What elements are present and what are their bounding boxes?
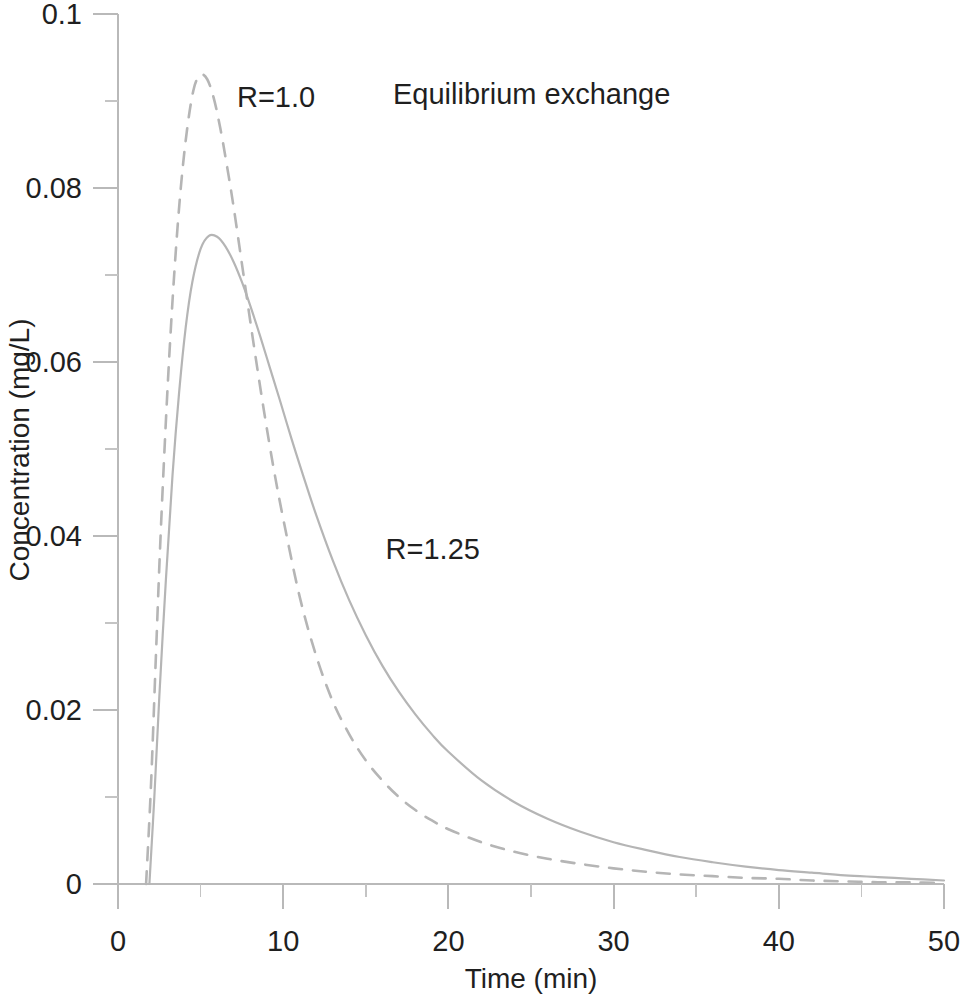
x-axis-title: Time (min): [465, 963, 598, 994]
x-tick-label: 50: [928, 925, 960, 957]
y-axis-title: Concentration (mg/L): [4, 318, 35, 581]
y-axis-ticks: 00.020.040.060.080.1: [26, 0, 118, 900]
chart-title: Equilibrium exchange: [393, 78, 670, 110]
x-tick-label: 0: [110, 925, 126, 957]
y-tick-label: 0.08: [26, 172, 82, 204]
y-tick-major: 0.08: [26, 172, 118, 204]
x-tick-major: 10: [267, 884, 299, 957]
x-tick-major: 40: [763, 884, 795, 957]
y-tick-major: 0: [66, 868, 118, 900]
x-tick-label: 40: [763, 925, 795, 957]
x-tick-major: 30: [597, 884, 629, 957]
y-tick-major: 0.02: [26, 694, 118, 726]
axes-layer: [118, 14, 944, 884]
x-tick-label: 10: [267, 925, 299, 957]
x-axis-ticks: 01020304050: [110, 884, 960, 957]
x-tick-major: 0: [110, 884, 126, 957]
y-tick-major: 0.1: [42, 0, 118, 30]
series-annotation-label: R=1.25: [386, 533, 480, 565]
series-annotation-label: R=1.0: [237, 81, 315, 113]
series-line-r-1-25: [149, 235, 944, 884]
x-tick-major: 20: [432, 884, 464, 957]
x-tick-label: 30: [597, 925, 629, 957]
x-tick-major: 50: [928, 884, 960, 957]
y-tick-major: 0.06: [26, 346, 118, 378]
x-tick-label: 20: [432, 925, 464, 957]
series-line-r-1-0: [146, 74, 944, 884]
annotations-layer: R=1.0R=1.25: [237, 81, 480, 565]
y-tick-label: 0.1: [42, 0, 82, 30]
y-tick-major: 0.04: [26, 520, 118, 552]
y-tick-label: 0: [66, 868, 82, 900]
figure-container: 00.020.040.060.080.1 01020304050 Equilib…: [0, 0, 963, 1000]
data-series-layer: [146, 74, 944, 884]
y-tick-label: 0.02: [26, 694, 82, 726]
concentration-vs-time-chart: 00.020.040.060.080.1 01020304050 Equilib…: [0, 0, 963, 1000]
